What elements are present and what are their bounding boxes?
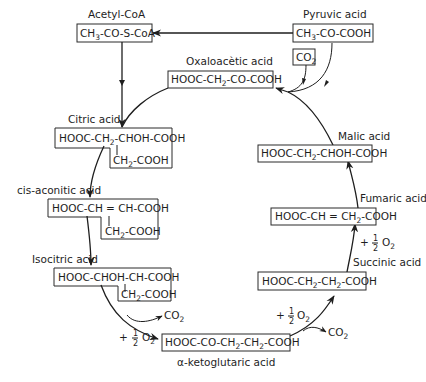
arrow-co2-out-1 <box>127 315 162 322</box>
label-succinic-acid: Succinic acid <box>353 256 421 268</box>
label-cis-aconitic-acid: cis-aconitic acid <box>17 184 101 196</box>
node-pyruvic-acid: Pyruvic acid CH3-CO-COOH <box>293 8 373 42</box>
svg-text:2: 2 <box>373 244 378 253</box>
svg-text:O2: O2 <box>382 236 395 251</box>
svg-text:+: + <box>119 331 128 343</box>
arrow-malic-to-oxaloacetic <box>288 92 333 145</box>
svg-text:O2: O2 <box>142 331 155 346</box>
svg-text:O2: O2 <box>297 309 310 324</box>
half-o2-annotation-1: + 1 2 O2 <box>119 329 155 348</box>
krebs-cycle-diagram: Acetyl-CoA CH3-CO-S-CoA Pyruvic acid CH3… <box>0 0 426 382</box>
label-citric-acid: Citric acid <box>68 113 121 125</box>
arrow-to-oxaloacetic <box>276 88 288 92</box>
half-o2-annotation-3: + 1 2 O2 <box>360 234 395 253</box>
label-alpha-ketoglutaric-acid: α-ketoglutaric acid <box>177 356 275 368</box>
svg-text:+: + <box>360 236 369 248</box>
label-fumaric-acid: Fumaric acid <box>360 192 426 204</box>
arrowhead-co2 <box>302 78 306 85</box>
arrow-oxaloacetic-to-citric <box>122 88 168 127</box>
node-citric-acid: Citric acid HOOC-CH2-CHOH-COOH CH2-COOH <box>55 113 185 169</box>
arrow-fumaric-to-malic <box>348 161 358 208</box>
node-alpha-ketoglutaric-acid: HOOC-CO-CH2-CH2-COOH α-ketoglutaric acid <box>162 334 300 368</box>
node-malic-acid: Malic acid HOOC-CH2-CHOH-COOH <box>258 130 390 162</box>
node-co2-input: CO2 <box>293 49 317 66</box>
node-fumaric-acid: Fumaric acid HOOC-CH = CH2-COOH <box>271 192 426 225</box>
arrowhead-acetylcoa-mid <box>119 80 125 86</box>
formula-isocitric-line1: HOOC-CHOH-CH-COOH <box>58 271 180 283</box>
formula-cis-aconitic-line1: HOOC-CH = CH-COOH <box>52 202 169 214</box>
node-acetyl-coa: Acetyl-CoA CH3-CO-S-CoA <box>77 8 156 42</box>
co2-out-1: CO2 <box>164 309 185 324</box>
label-oxaloacetic-acid: Oxaloacètic acid <box>186 55 273 67</box>
node-cis-aconitic-acid: cis-aconitic acid HOOC-CH = CH-COOH CH2-… <box>17 184 169 240</box>
svg-text:1: 1 <box>289 307 294 316</box>
half-o2-annotation-2: + 1 2 O2 <box>276 307 310 326</box>
label-pyruvic-acid: Pyruvic acid <box>303 8 367 20</box>
node-succinic-acid: Succinic acid HOOC-CH2-CH2-COOH <box>258 256 421 290</box>
node-oxaloacetic-acid: Oxaloacètic acid HOOC-CH2-CO-COOH <box>168 55 282 88</box>
label-isocitric-acid: Isocitric acid <box>32 253 98 265</box>
svg-text:2: 2 <box>133 339 138 348</box>
svg-text:1: 1 <box>133 329 138 338</box>
label-malic-acid: Malic acid <box>338 130 390 142</box>
svg-text:1: 1 <box>373 234 378 243</box>
svg-text:2: 2 <box>289 317 294 326</box>
co2-out-2: CO2 <box>328 326 349 341</box>
svg-text:+: + <box>276 309 285 321</box>
arrow-co2-out-2 <box>303 327 326 332</box>
label-acetyl-coa: Acetyl-CoA <box>88 8 146 20</box>
arrowhead-pyruvic <box>324 80 329 87</box>
